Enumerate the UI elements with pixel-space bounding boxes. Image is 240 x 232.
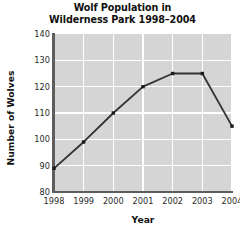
data-point-marker — [230, 124, 233, 127]
x-axis-title: Year — [54, 214, 232, 225]
x-axis-tick-label: 1999 — [69, 196, 99, 206]
x-axis-tick-labels: 1998199920002001200220032004 — [54, 196, 232, 208]
x-axis-tick-label: 2004 — [217, 196, 240, 206]
chart-figure: Wolf Population in Wilderness Park 1998–… — [0, 0, 240, 232]
data-point-marker — [112, 111, 115, 114]
x-axis-tick-label: 2002 — [158, 196, 188, 206]
data-point-marker — [141, 85, 144, 88]
data-point-marker — [82, 140, 85, 143]
data-point-marker — [52, 167, 55, 170]
data-point-marker — [171, 72, 174, 75]
x-axis-tick-label: 2000 — [98, 196, 128, 206]
x-axis-tick-label: 2003 — [187, 196, 217, 206]
data-point-marker — [201, 72, 204, 75]
x-axis-tick-label: 1998 — [39, 196, 69, 206]
x-axis-tick-label: 2001 — [128, 196, 158, 206]
